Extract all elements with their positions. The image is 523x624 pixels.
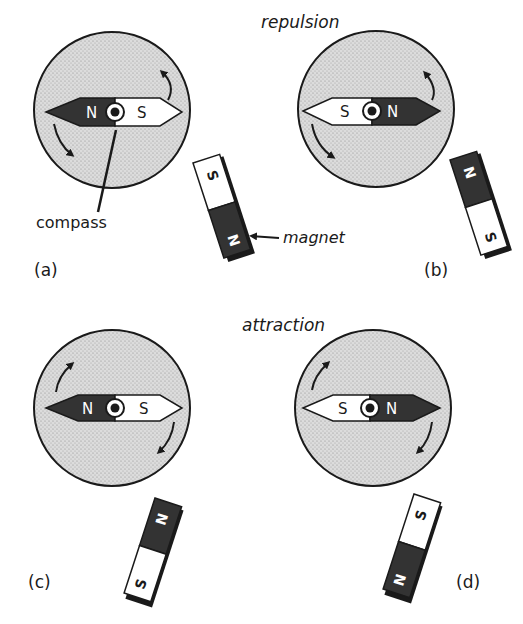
panel-label-d: (d) bbox=[456, 572, 480, 592]
heading-repulsion: repulsion bbox=[261, 12, 340, 32]
magnet-north-end bbox=[450, 151, 492, 207]
needle-right-pole: S bbox=[137, 104, 147, 122]
magnet-compass-diagram: repulsion attraction N S compass S N mag… bbox=[0, 0, 523, 624]
panel-label-a: (a) bbox=[34, 260, 58, 280]
needle-left-pole: N bbox=[86, 104, 97, 122]
magnet-north-end bbox=[383, 542, 425, 598]
magnet-north-end bbox=[140, 498, 182, 554]
needle-left-pole: S bbox=[338, 400, 348, 418]
magnet-south-end bbox=[465, 199, 507, 255]
compass-d: S N bbox=[295, 330, 451, 486]
panel-label-c: (c) bbox=[28, 572, 51, 592]
magnet-pointer-arrow-icon bbox=[252, 236, 279, 238]
compass-b: S N bbox=[298, 31, 454, 187]
needle-right-pole: N bbox=[386, 400, 397, 418]
magnet-a: S N bbox=[193, 153, 255, 262]
compass-c: N S bbox=[34, 330, 190, 486]
magnet-south-end bbox=[193, 154, 235, 210]
magnet-south-end bbox=[124, 546, 166, 602]
panel-a: N S compass S N magnet (a) bbox=[34, 32, 346, 280]
needle-right-pole: N bbox=[387, 103, 398, 121]
needle-right-pole: S bbox=[139, 400, 149, 418]
magnet-b: N S bbox=[450, 150, 512, 259]
magnet-north-end bbox=[208, 202, 250, 258]
magnet-c: N S bbox=[123, 498, 185, 607]
needle-left-pole: S bbox=[340, 103, 350, 121]
panel-c: N S N S (c) bbox=[28, 330, 190, 607]
magnet-callout: magnet bbox=[283, 228, 346, 247]
compass-a: N S bbox=[34, 32, 190, 188]
magnet-d: S N bbox=[382, 494, 444, 603]
heading-attraction: attraction bbox=[242, 315, 325, 335]
compass-callout: compass bbox=[36, 213, 107, 232]
magnet-south-end bbox=[399, 494, 441, 550]
panel-label-b: (b) bbox=[424, 260, 448, 280]
panel-d: S N S N (d) bbox=[295, 330, 480, 603]
needle-left-pole: N bbox=[82, 400, 93, 418]
